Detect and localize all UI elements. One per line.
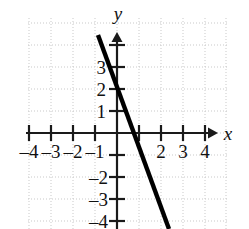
- x-tick-label-neg2: –2: [63, 141, 83, 162]
- x-axis-arrow-icon: [208, 128, 218, 139]
- y-axis: [109, 32, 125, 229]
- y-tick-label-1: 1: [97, 101, 107, 122]
- x-tick-label-neg1: –1: [85, 141, 105, 162]
- x-axis: [26, 125, 218, 141]
- coordinate-plane-plot: –4 –3 –2 –1 2 3 4 3 2 1 –2 –3 –4 x y: [0, 0, 249, 229]
- x-axis-label: x: [223, 123, 233, 144]
- grid: [28, 18, 228, 229]
- x-tick-label-neg3: –3: [41, 141, 61, 162]
- graph-figure: ): [0, 0, 249, 229]
- y-tick-label-3: 3: [97, 57, 107, 78]
- grid-vertical-lines: [29, 18, 226, 229]
- x-tick-label-neg4: –4: [19, 141, 40, 162]
- x-tick-labels: –4 –3 –2 –1 2 3 4: [19, 141, 211, 162]
- x-tick-label-4: 4: [200, 141, 210, 162]
- y-tick-label-neg3: –3: [88, 189, 108, 210]
- x-tick-label-3: 3: [178, 141, 188, 162]
- x-tick-label-2: 2: [156, 141, 166, 162]
- y-axis-arrow-icon: [112, 32, 123, 42]
- y-tick-label-2: 2: [97, 79, 107, 100]
- y-axis-label: y: [112, 3, 123, 24]
- y-tick-label-neg2: –2: [88, 167, 108, 188]
- y-tick-label-neg4: –4: [88, 211, 109, 229]
